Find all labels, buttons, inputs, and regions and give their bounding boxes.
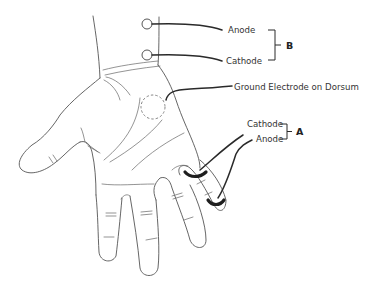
b-anode-label: Anode (228, 25, 255, 35)
b-bracket (268, 30, 281, 60)
a-anode-lead (218, 140, 252, 198)
a-cathode-label: Cathode (247, 119, 283, 129)
a-anode-label: Anode (256, 134, 283, 144)
b-anode-electrode (142, 19, 152, 29)
group-b-label: B (286, 40, 293, 51)
b-cathode-lead (152, 55, 222, 61)
hand-electrode-diagram: Anode Cathode Ground Electrode on Dorsum… (0, 0, 367, 284)
group-a-label: A (296, 126, 304, 137)
ground-electrode-marker (141, 95, 165, 119)
ground-lead (166, 86, 232, 100)
b-anode-lead (152, 24, 222, 30)
a-anode-ring (208, 200, 224, 205)
b-cathode-label: Cathode (226, 56, 262, 66)
ground-electrode-label: Ground Electrode on Dorsum (234, 82, 359, 92)
b-cathode-electrode (142, 50, 152, 60)
hand-illustration (19, 16, 226, 276)
